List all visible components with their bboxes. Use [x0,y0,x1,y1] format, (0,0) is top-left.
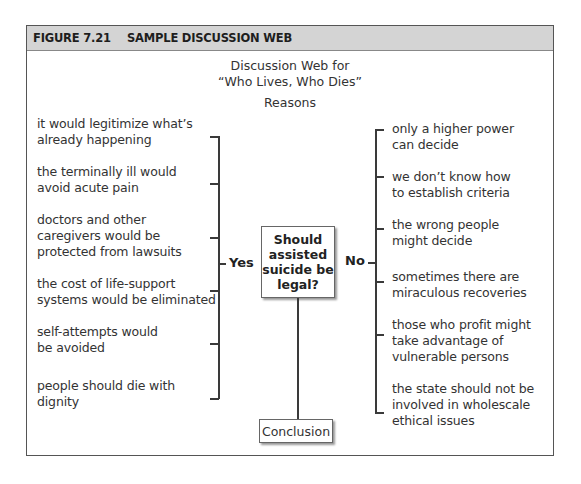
web-title-line2: “Who Lives, Who Dies” [27,74,553,90]
figure-number: FIGURE 7.21 [33,31,111,45]
no-reason-3: the wrong peoplemight decide [392,217,499,249]
figure-title: SAMPLE DISCUSSION WEB [127,31,292,45]
yes-connector [218,263,226,265]
yes-tick-3 [210,237,219,239]
no-tick-2 [375,176,384,178]
question-box: Should assisted suicide be legal? [261,226,335,298]
no-tick-5 [375,334,384,336]
yes-reason-3: doctors and othercaregivers would beprot… [37,212,182,260]
web-title-line1: Discussion Web for [27,58,553,74]
conclusion-box: Conclusion [259,419,333,443]
yes-reason-2: the terminally ill wouldavoid acute pain [37,164,177,196]
no-tick-6 [375,412,384,414]
yes-bracket-line [218,136,220,399]
figure-header: FIGURE 7.21 SAMPLE DISCUSSION WEB [27,26,553,51]
yes-tick-6 [210,398,219,400]
no-reason-5: those who profit mighttake advantage ofv… [392,317,531,365]
no-bracket-line [375,129,377,413]
yes-label: Yes [229,255,254,270]
yes-reason-1: it would legitimize what’salready happen… [37,116,193,148]
no-reason-6: the state should not beinvolved in whole… [392,381,534,429]
yes-reason-6: people should die withdignity [37,378,175,410]
yes-tick-4 [210,290,219,292]
no-reason-1: only a higher powercan decide [392,121,514,153]
yes-tick-1 [210,136,219,138]
reasons-label: Reasons [27,95,553,110]
no-tick-4 [375,281,384,283]
figure-frame: FIGURE 7.21 SAMPLE DISCUSSION WEB Discus… [26,25,554,456]
no-label: No [345,253,365,268]
yes-tick-2 [210,183,219,185]
no-reason-4: sometimes there aremiraculous recoveries [392,269,527,301]
yes-reason-4: the cost of life-supportsystems would be… [37,276,216,308]
conclusion-connector [297,298,299,419]
yes-tick-5 [210,343,219,345]
no-tick-1 [375,129,384,131]
yes-reason-5: self-attempts wouldbe avoided [37,324,158,356]
no-tick-3 [375,228,384,230]
no-reason-2: we don’t know howto establish criteria [392,169,511,201]
